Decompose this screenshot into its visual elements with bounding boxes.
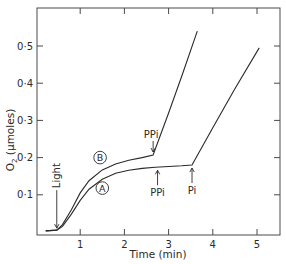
annotation-ppi: PPi xyxy=(150,170,165,198)
y-tick-label: 0·4 xyxy=(17,78,33,89)
curve-b xyxy=(46,31,198,231)
y-tick-label: 0·3 xyxy=(17,115,33,126)
x-tick-label: 2 xyxy=(121,239,127,250)
x-axis-ticks: 12345 xyxy=(77,8,260,250)
oxygen-evolution-chart: 12345 0·10·20·30·40·5 LightPPiPPiPiBA Ti… xyxy=(0,0,286,264)
x-tick-label: 5 xyxy=(254,239,260,250)
svg-text:Pi: Pi xyxy=(188,185,197,196)
annotation-pi: Pi xyxy=(188,168,197,196)
svg-text:Light: Light xyxy=(51,163,62,188)
annotation-light: Light xyxy=(51,163,62,228)
annotations: LightPPiPPiPiBA xyxy=(51,129,196,228)
x-axis-label: Time (min) xyxy=(128,248,186,260)
annotation-ppi: PPi xyxy=(144,129,159,152)
x-tick-label: 1 xyxy=(77,239,83,250)
series-label-b: B xyxy=(94,151,107,164)
y-tick-label: 0·2 xyxy=(17,152,33,163)
svg-text:PPi: PPi xyxy=(150,187,165,198)
plot-frame xyxy=(37,8,280,235)
svg-text:B: B xyxy=(97,152,104,163)
series-label-a: A xyxy=(96,182,109,195)
svg-text:PPi: PPi xyxy=(144,129,159,140)
svg-text:A: A xyxy=(99,183,106,194)
y-tick-label: 0·5 xyxy=(17,41,33,52)
x-tick-label: 4 xyxy=(210,239,216,250)
y-tick-label: 0·1 xyxy=(17,189,33,200)
